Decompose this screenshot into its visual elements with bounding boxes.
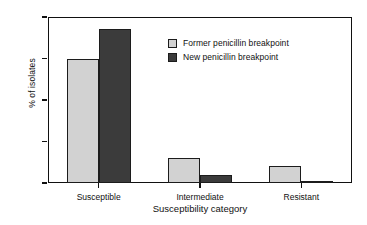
legend-label-new: New penicillin breakpoint <box>183 52 278 62</box>
legend-item-former: Former penicillin breakpoint <box>168 36 289 50</box>
y-tick-mark <box>42 16 47 17</box>
legend-swatch-new <box>168 53 177 62</box>
y-tick-mark <box>42 58 47 59</box>
y-tick-mark <box>42 141 47 142</box>
x-tick-label: Resistant <box>241 192 361 202</box>
y-tick-mark <box>42 182 47 183</box>
legend-item-new: New penicillin breakpoint <box>168 50 289 64</box>
y-axis-title: % of isolates <box>27 23 37 143</box>
legend-label-former: Former penicillin breakpoint <box>183 38 289 48</box>
x-axis-title: Susceptibility category <box>48 203 352 214</box>
y-tick-mark <box>42 99 47 100</box>
bar <box>269 166 301 183</box>
legend-swatch-former <box>168 39 177 48</box>
bar <box>168 158 200 183</box>
x-tick-mark <box>301 183 302 188</box>
bar <box>99 29 131 183</box>
bar <box>301 181 333 183</box>
x-tick-mark <box>98 183 99 188</box>
bar <box>67 59 99 184</box>
bar <box>200 175 232 183</box>
legend: Former penicillin breakpoint New penicil… <box>168 36 289 64</box>
x-tick-mark <box>199 183 200 188</box>
chart-figure: % of isolates 0255075100 SusceptibleInte… <box>0 0 367 225</box>
